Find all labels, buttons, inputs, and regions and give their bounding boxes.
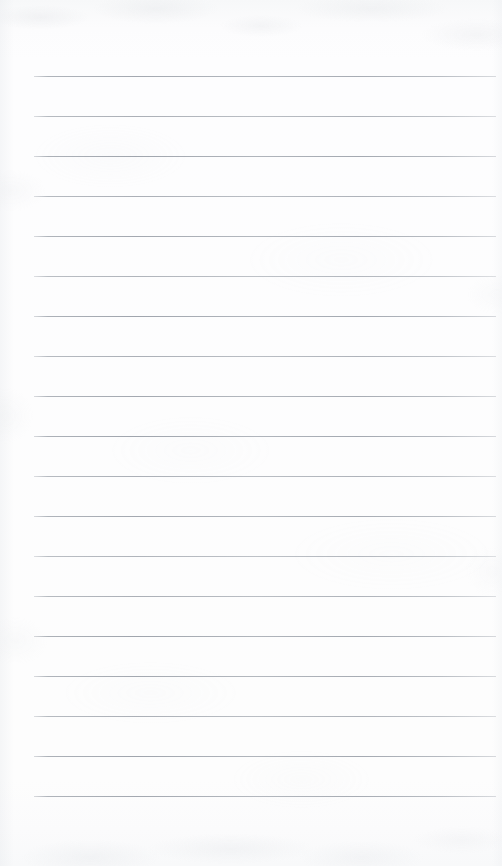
paper-background <box>0 0 502 866</box>
lined-paper-page <box>0 0 502 866</box>
